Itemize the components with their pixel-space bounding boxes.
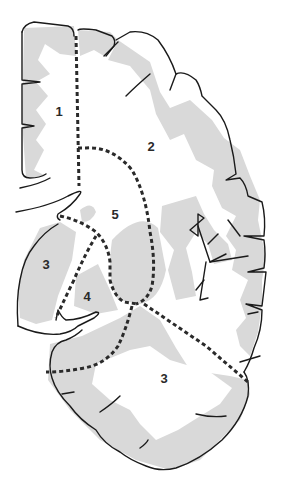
region-label-3-lower: 3 (160, 371, 167, 386)
region-label-4: 4 (83, 289, 90, 304)
region-label-2: 2 (147, 139, 154, 154)
region-label-5: 5 (111, 207, 118, 222)
region-label-3-upper: 3 (42, 257, 49, 272)
region-label-1: 1 (55, 104, 62, 119)
brain-section-diagram (0, 0, 289, 499)
